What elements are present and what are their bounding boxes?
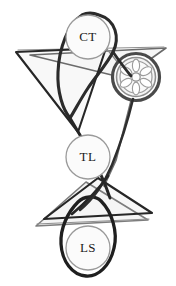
node-layer: CT TL LS [66, 15, 110, 270]
node-ct[interactable]: CT [66, 15, 110, 59]
node-ct-label: CT [79, 29, 97, 44]
node-ls[interactable]: LS [66, 226, 110, 270]
wheel-spoke-gap [132, 82, 139, 95]
node-tl-label: TL [80, 149, 97, 164]
figure-canvas: CT TL LS [0, 0, 176, 286]
wheel-center-hub [132, 73, 140, 81]
topology-diagram: CT TL LS [0, 0, 176, 286]
wheel-spoke-gap [132, 59, 139, 72]
node-ls-label: LS [80, 240, 96, 255]
node-tl[interactable]: TL [66, 135, 110, 179]
